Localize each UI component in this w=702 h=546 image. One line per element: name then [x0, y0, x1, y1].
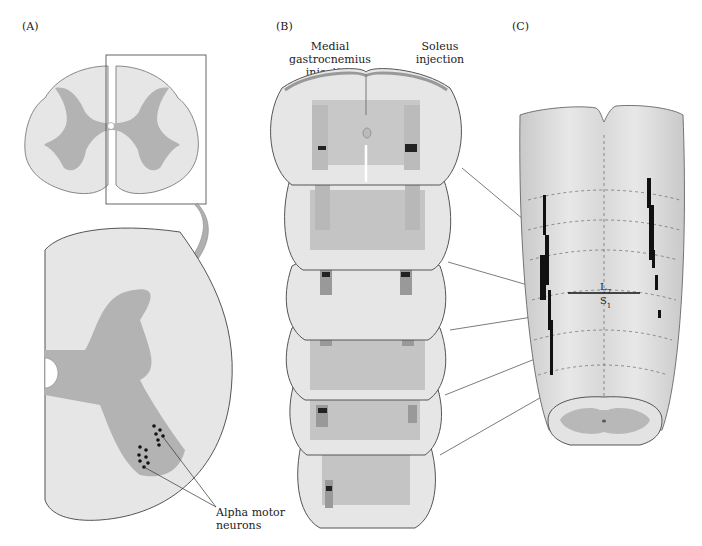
- figure-canvas: L7 S1: [0, 0, 702, 546]
- slice-top: [271, 69, 462, 185]
- cross-section-small: [25, 55, 206, 204]
- stacked-slices: [271, 69, 462, 528]
- cross-section-enlarged: [45, 228, 232, 520]
- longitudinal-cord: [520, 105, 685, 445]
